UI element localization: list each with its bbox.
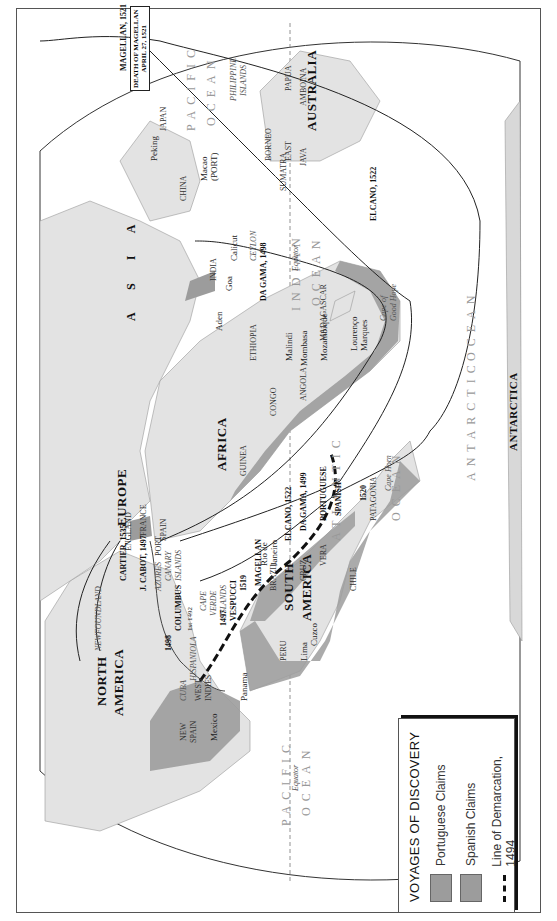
legend-item-demarcation: Line of Demarcation, 1494 bbox=[490, 729, 518, 902]
label-ocean-antarctic: OCEAN bbox=[465, 290, 477, 361]
city-marques: Marques bbox=[360, 320, 369, 352]
label-cape-good-hope-1: Cape of bbox=[380, 296, 388, 321]
label-cape-verde-verde: VERDE bbox=[210, 591, 218, 616]
label-antarctica: ANTARCTICA bbox=[508, 372, 519, 451]
label-ethiopia: ETHIOPIA bbox=[250, 324, 258, 361]
label-new: NEW bbox=[180, 723, 188, 741]
route-columbus: COLUMBUS bbox=[175, 585, 183, 631]
label-china: CHINA bbox=[180, 176, 188, 201]
city-malindi: Malindi bbox=[285, 333, 294, 362]
legend-title: VOYAGES OF DISCOVERY bbox=[407, 729, 422, 902]
city-panama: Panama bbox=[240, 673, 249, 702]
map-legend: VOYAGES OF DISCOVERY Portuguese Claims S… bbox=[398, 718, 515, 913]
route-magellan-1519: 1519 bbox=[240, 575, 248, 591]
label-indies: INDIES bbox=[205, 675, 213, 701]
label-vera: VERA bbox=[320, 544, 328, 566]
label-brazil: BRAZIL bbox=[270, 562, 278, 591]
label-equator-pacific: Equator bbox=[292, 765, 300, 791]
label-chile: CHILE bbox=[350, 567, 358, 591]
label-cuba: CUBA bbox=[180, 680, 188, 701]
route-elcano-indian: ELCANO, 1522 bbox=[370, 167, 378, 221]
route-columbus-year: 1st 1492 bbox=[187, 607, 194, 631]
route-1498: 1498 bbox=[165, 635, 173, 651]
label-france: FRANCE bbox=[140, 504, 148, 536]
legend-label-spanish: Spanish Claims bbox=[464, 783, 478, 866]
label-west: WEST bbox=[195, 679, 203, 701]
route-magellan-1521-east: MAGELLAN, 1521 bbox=[120, 4, 128, 71]
label-ceylon: CEYLON bbox=[250, 231, 258, 261]
death-of-magellan-line2: APRIL 27, 1521 bbox=[140, 9, 148, 88]
label-canary: CANARY bbox=[165, 551, 173, 581]
label-patagonia: PATAGONIA bbox=[370, 477, 378, 521]
label-papua: PAPUA bbox=[285, 66, 293, 92]
city-peking: Peking bbox=[150, 136, 159, 161]
label-congo: CONGO bbox=[270, 388, 278, 416]
label-africa: AFRICA bbox=[215, 417, 228, 471]
legend-label-demarcation: Line of Demarcation, 1494 bbox=[490, 729, 518, 867]
city-cuzco: Cuzco bbox=[310, 623, 319, 646]
route-magellan-1520: 1520 bbox=[360, 485, 368, 501]
legend-item-portuguese: Portuguese Claims bbox=[430, 729, 452, 902]
label-ocean-pacific-west: OCEAN bbox=[300, 745, 312, 816]
city-rio-2: Janeiro bbox=[270, 540, 279, 566]
label-antarctic: ANTARCTIC bbox=[465, 359, 477, 481]
route-vespucci: VESPUCCI bbox=[230, 580, 238, 621]
route-vespucci-year: 1497 bbox=[220, 610, 228, 626]
city-mombasa: Mombasa bbox=[300, 331, 309, 367]
city-lourenco: Lourenço bbox=[350, 317, 359, 351]
label-asia: A S I A bbox=[125, 215, 137, 321]
label-borneo: BORNEO bbox=[265, 128, 273, 161]
label-new-spain: SPAIN bbox=[190, 721, 198, 743]
label-north: NORTH bbox=[95, 656, 108, 706]
city-lima: Lima bbox=[300, 642, 309, 661]
label-east: EAST bbox=[285, 141, 293, 161]
dashed-line-icon bbox=[503, 875, 506, 902]
route-dagama-1499: DA GAMA, 1499 bbox=[300, 473, 308, 531]
map-stage: A S I A EUROPE AFRICA AUSTRALIA NORTH AM… bbox=[0, 0, 557, 921]
label-portuguese: PORTUGUESE bbox=[320, 466, 328, 521]
label-azores: AZORES bbox=[155, 562, 163, 591]
city-goa: Goa bbox=[225, 276, 234, 291]
label-newfoundland: NEWFOUNDLAND bbox=[95, 586, 103, 651]
label-java: JAVA bbox=[300, 148, 308, 166]
portuguese-claims-swatch bbox=[430, 874, 452, 902]
label-cape-good-hope-2: Good Hope bbox=[390, 284, 398, 321]
label-port: PORT bbox=[155, 536, 163, 556]
city-mozambique: Mozambique bbox=[320, 314, 329, 362]
legend-label-portuguese: Portuguese Claims bbox=[434, 765, 448, 866]
route-magellan-label: MAGELLAN bbox=[255, 539, 263, 586]
label-philippine: PHILIPPINE bbox=[230, 58, 238, 101]
label-pacific-east: PACIFIC bbox=[185, 44, 197, 131]
label-cape-horn: Cape Horn bbox=[385, 455, 393, 491]
spanish-claims-swatch bbox=[460, 874, 482, 902]
label-japan: JAPAN bbox=[160, 107, 168, 131]
city-calicut: Calicut bbox=[230, 235, 239, 261]
label-islands-canary: ISLANDS bbox=[175, 550, 183, 581]
label-islands-philippine: ISLANDS bbox=[240, 65, 248, 96]
label-spanish: SPANISH bbox=[335, 482, 343, 516]
label-cape-verde-cape: CAPE bbox=[200, 591, 208, 611]
label-amboina: AMBOINA bbox=[300, 68, 308, 106]
label-guinea: GUINEA bbox=[240, 445, 248, 476]
label-hispaniola: HISPANIOLA bbox=[190, 637, 198, 681]
label-peru: PERU bbox=[280, 641, 288, 661]
city-mexico: Mexico bbox=[210, 714, 219, 742]
label-angola: ANGOLA bbox=[300, 367, 308, 401]
route-cabot: J. CABOT, 1497 bbox=[140, 535, 148, 591]
label-ocean-pacific-east: OCEAN bbox=[205, 55, 217, 126]
label-india: INDIA bbox=[210, 258, 218, 281]
route-cartier: CARTIER, 1535 bbox=[120, 524, 128, 581]
label-america-north: AMERICA bbox=[112, 649, 125, 716]
legend-item-spanish: Spanish Claims bbox=[460, 729, 482, 902]
label-south: SOUTH bbox=[282, 563, 295, 611]
route-elcano-atlantic: ELCANO, 1522 bbox=[285, 487, 293, 541]
death-of-magellan-annotation: DEATH OF MAGELLAN APRIL 27, 1521 bbox=[130, 6, 150, 91]
city-macao-port: (PORT) bbox=[210, 153, 219, 181]
label-equator-indian: Equator bbox=[292, 245, 300, 271]
city-macao: Macao bbox=[200, 157, 209, 182]
route-dagama-1498: DA GAMA, 1498 bbox=[260, 243, 268, 301]
city-aden: Aden bbox=[215, 312, 224, 332]
label-cruz: CRUZ bbox=[300, 560, 308, 581]
death-of-magellan-line1: DEATH OF MAGELLAN bbox=[132, 9, 140, 88]
